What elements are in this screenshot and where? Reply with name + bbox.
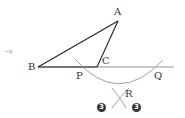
label-r: R xyxy=(125,89,133,99)
label-p: P xyxy=(76,71,83,81)
label-b: B xyxy=(28,62,35,72)
step-badge-1: 3 xyxy=(97,103,106,112)
geometry-construction-diagram: ➔ A B C P Q R 3 3 xyxy=(0,0,185,118)
label-c: C xyxy=(102,56,110,66)
construction-drawing xyxy=(0,0,185,118)
step-badge-2: 3 xyxy=(132,103,141,112)
label-a: A xyxy=(114,7,121,17)
label-q: Q xyxy=(154,71,162,81)
arc-pq xyxy=(75,59,163,84)
